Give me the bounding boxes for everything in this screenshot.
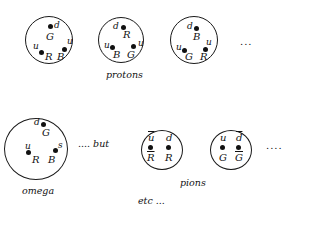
- quark-flavor: u: [148, 133, 154, 143]
- quark-flavor: u: [33, 41, 39, 51]
- pions-caption: pions: [180, 178, 206, 188]
- quark-color: R: [32, 155, 40, 165]
- quark-color: G: [127, 50, 135, 60]
- quark-flavor: u: [67, 36, 73, 46]
- quark-color: G: [235, 153, 243, 163]
- pions-ellipsis: ....: [266, 141, 283, 151]
- quark-color: R: [147, 153, 155, 163]
- quark-dot: [39, 50, 44, 55]
- protons-ellipsis: ...: [240, 37, 253, 47]
- quark-color: R: [200, 52, 208, 62]
- quark-color: G: [219, 153, 227, 163]
- quark-color: G: [42, 128, 50, 138]
- quark-dot: [148, 145, 153, 150]
- quark-color: B: [193, 32, 200, 42]
- etc-footer: etc ...: [138, 196, 165, 206]
- quark-flavor: u: [25, 141, 31, 151]
- quark-flavor: d: [187, 21, 193, 31]
- omega-but-text: .... but: [78, 139, 109, 149]
- protons-caption: protons: [106, 70, 143, 80]
- quark-color: G: [185, 52, 193, 62]
- quark-color: B: [113, 50, 120, 60]
- quark-flavor: d: [236, 133, 242, 143]
- quark-color: B: [48, 155, 55, 165]
- quark-flavor: u: [176, 42, 182, 52]
- omega-caption: omega: [22, 186, 54, 196]
- quark-flavor: u: [220, 133, 226, 143]
- quark-color: G: [46, 32, 54, 42]
- quark-flavor: d: [54, 20, 60, 30]
- quark-color: B: [57, 52, 64, 62]
- quark-flavor: d: [34, 117, 40, 127]
- quark-dot: [48, 24, 53, 29]
- quark-dot: [236, 145, 241, 150]
- quark-flavor: d: [166, 133, 172, 143]
- quark-dot: [220, 145, 225, 150]
- pion-2-circle: [210, 130, 252, 170]
- quark-color: R: [45, 52, 53, 62]
- quark-flavor: s: [58, 140, 63, 150]
- quark-color: R: [165, 153, 173, 163]
- quark-flavor: u: [138, 38, 144, 48]
- quark-dot: [166, 145, 171, 150]
- quark-flavor: d: [113, 21, 119, 31]
- quark-flavor: u: [104, 40, 110, 50]
- quark-color: R: [123, 30, 131, 40]
- quark-flavor: u: [206, 37, 212, 47]
